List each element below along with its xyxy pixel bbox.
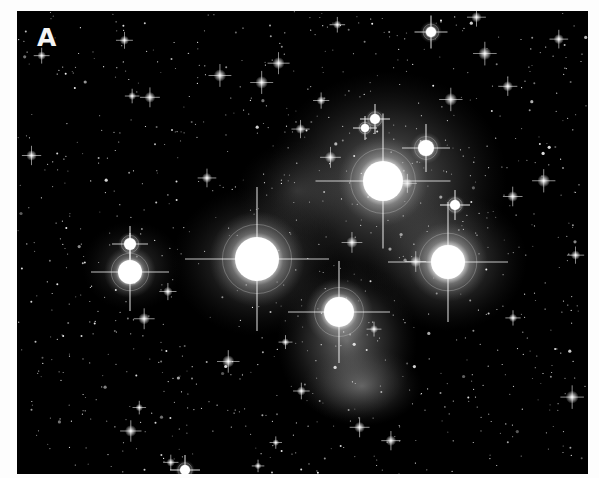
star-bottom — [170, 455, 200, 474]
star-cluster-photo: A — [17, 11, 588, 474]
star-top — [415, 16, 448, 49]
star-field — [17, 11, 588, 474]
panel-label: A — [37, 25, 56, 50]
